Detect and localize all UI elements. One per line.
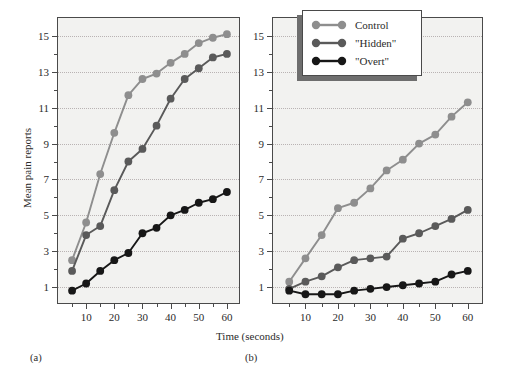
y-axis-tick-label: 11 — [38, 102, 49, 114]
y-axis-tick-label: 15 — [38, 30, 49, 42]
series-marker — [68, 267, 76, 275]
series-marker — [318, 290, 326, 298]
series-marker — [153, 70, 161, 78]
series-line — [289, 271, 468, 294]
legend-label-hidden: "Hidden" — [355, 37, 396, 49]
series-marker — [431, 131, 439, 139]
legend-label-overt: "Overt" — [355, 55, 389, 67]
panel-a-plot-area: 13579111315102030405060 — [57, 17, 240, 304]
series-marker — [209, 195, 217, 203]
legend-key-marker — [338, 57, 346, 65]
y-axis-tick-label: 1 — [259, 281, 265, 293]
series-marker — [464, 267, 472, 275]
y-axis-tick-label: 5 — [44, 209, 50, 221]
series-marker — [167, 59, 175, 67]
series-marker — [302, 278, 310, 286]
y-axis-tick-label: 7 — [44, 173, 50, 185]
panel-a-caption: (a) — [30, 352, 42, 363]
x-axis-tick-label: 20 — [332, 311, 343, 323]
series-marker — [96, 222, 104, 230]
legend-key-hidden — [309, 36, 349, 50]
x-axis-tick-label: 10 — [81, 311, 92, 323]
series-marker — [415, 280, 423, 288]
series-marker — [448, 113, 456, 121]
y-axis-tick-label: 13 — [38, 66, 49, 78]
legend-key-control — [309, 18, 349, 32]
legend-item: "Overt" — [309, 52, 415, 70]
y-axis-tick-label: 3 — [259, 245, 265, 257]
series-line — [72, 54, 227, 271]
series-marker — [399, 235, 407, 243]
series-marker — [110, 186, 118, 194]
x-axis-tick-label: 50 — [430, 311, 441, 323]
legend-label-control: Control — [355, 19, 389, 31]
y-axis-title: Mean pain reports — [21, 128, 33, 208]
legend-item: Control — [309, 16, 415, 34]
series-marker — [350, 256, 358, 264]
x-axis-tick-label: 30 — [365, 311, 376, 323]
series-marker — [334, 290, 342, 298]
series-line — [289, 210, 468, 289]
series-marker — [110, 256, 118, 264]
series-marker — [82, 280, 90, 288]
y-axis-tick-label: 3 — [44, 245, 50, 257]
legend-key-marker — [338, 39, 346, 47]
y-axis-tick-label: 9 — [44, 138, 50, 150]
legend-key-marker — [338, 21, 346, 29]
series-marker — [195, 199, 203, 207]
series-marker — [285, 278, 293, 286]
y-axis-tick-label: 7 — [259, 173, 265, 185]
panel-b-caption: (b) — [245, 352, 257, 363]
series-marker — [366, 285, 374, 293]
series-marker — [82, 231, 90, 239]
series-marker — [431, 222, 439, 230]
series-marker — [464, 98, 472, 106]
series-marker — [415, 140, 423, 148]
y-axis-tick-label: 13 — [253, 66, 264, 78]
series-line — [72, 192, 227, 291]
legend-key-marker — [312, 21, 320, 29]
series-marker — [139, 229, 147, 237]
series-marker — [209, 34, 217, 42]
x-axis-tick-label: 10 — [300, 311, 311, 323]
series-marker — [96, 170, 104, 178]
series-marker — [448, 271, 456, 279]
series-marker — [167, 95, 175, 103]
y-axis-tick-label: 9 — [259, 138, 265, 150]
series-marker — [334, 263, 342, 271]
series-marker — [464, 206, 472, 214]
series-marker — [110, 129, 118, 137]
series-marker — [302, 254, 310, 262]
series-marker — [431, 278, 439, 286]
x-axis-tick-label: 60 — [462, 311, 473, 323]
series-marker — [167, 211, 175, 219]
series-marker — [318, 272, 326, 280]
x-axis-tick-label: 50 — [193, 311, 204, 323]
legend-key-marker — [312, 57, 320, 65]
x-axis-tick-label: 40 — [397, 311, 408, 323]
series-marker — [68, 287, 76, 295]
x-axis-title: Time (seconds) — [216, 330, 284, 342]
series-marker — [153, 122, 161, 130]
series-marker — [223, 30, 231, 38]
legend: Control "Hidden" "Overt" — [302, 10, 422, 76]
y-axis-tick-label: 1 — [44, 281, 50, 293]
series-marker — [153, 224, 161, 232]
series-marker — [366, 185, 374, 193]
series-marker — [448, 215, 456, 223]
series-line — [289, 102, 468, 281]
legend-item: "Hidden" — [309, 34, 415, 52]
series-marker — [415, 229, 423, 237]
series-marker — [124, 249, 132, 257]
y-axis-tick-label: 15 — [253, 30, 264, 42]
series-marker — [366, 254, 374, 262]
x-axis-tick-label: 60 — [221, 311, 232, 323]
series-marker — [82, 219, 90, 227]
series-marker — [181, 206, 189, 214]
series-marker — [181, 75, 189, 83]
series-marker — [399, 156, 407, 164]
series-marker — [139, 75, 147, 83]
series-marker — [383, 283, 391, 291]
series-marker — [209, 54, 217, 62]
series-marker — [223, 50, 231, 58]
